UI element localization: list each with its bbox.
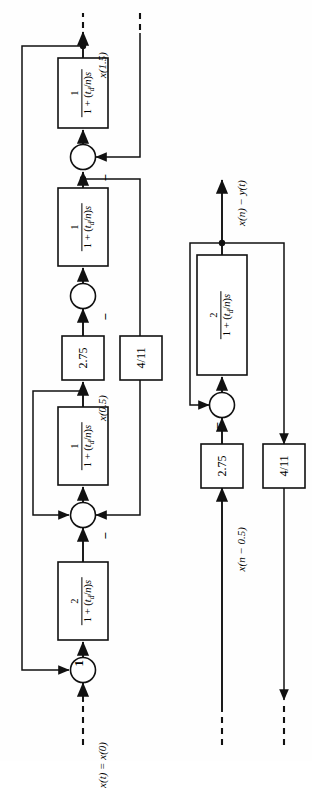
fraction-denominator: 1 + (td/n)s (81, 69, 96, 117)
block-left-lag-4-text: 11 + (td/n)s (69, 69, 96, 117)
sum-right-1 (210, 393, 235, 418)
block-right-gain-275-text: 2.75 (215, 456, 230, 477)
sum-left-2 (71, 503, 96, 528)
sum-left-3 (71, 284, 96, 309)
fraction-numerator: 1 (69, 69, 81, 117)
fraction-denominator: 1 + (td/n)s (220, 291, 235, 339)
label-input-left: x(t) = x(0) (97, 742, 108, 788)
fraction-denominator: 1 + (td/n)s (81, 422, 96, 470)
sign-sum-right-1: − (211, 422, 224, 429)
label-output-right: x(n) − y(t) (236, 180, 247, 226)
block-left-feedback-411-text: 4/11 (134, 348, 149, 369)
sign-sum-left-1: 1 (72, 660, 85, 667)
label-input-right: x(n − 0.5) (236, 527, 247, 571)
sum-left-4 (71, 145, 96, 170)
block-left-lag-3-text: 11 + (td/n)s (69, 203, 96, 251)
fraction-numerator: 2 (208, 291, 220, 339)
label-x15: x(1.5) (97, 52, 108, 78)
fraction-numerator: 1 (69, 422, 81, 470)
sign-sum-left-3: − (99, 313, 112, 320)
label-x05: x(0.5) (97, 395, 108, 421)
fraction-denominator: 1 + (td/n)s (81, 577, 96, 625)
block-left-lag-2-text: 11 + (td/n)s (69, 422, 96, 470)
fraction-denominator: 1 + (td/n)s (81, 203, 96, 251)
block-right-feedback-411-text: 4/11 (277, 456, 292, 477)
block-right-lag-1-text: 21 + (td/n)s (208, 291, 235, 339)
fraction-numerator: 2 (69, 577, 81, 625)
block-left-gain-275-text: 2.75 (76, 348, 91, 369)
block-left-lag-1-text: 21 + (td/n)s (69, 577, 96, 625)
fraction-numerator: 1 (69, 203, 81, 251)
sign-sum-left-2: − (99, 532, 112, 539)
sign-sum-left-4: − (99, 174, 112, 181)
